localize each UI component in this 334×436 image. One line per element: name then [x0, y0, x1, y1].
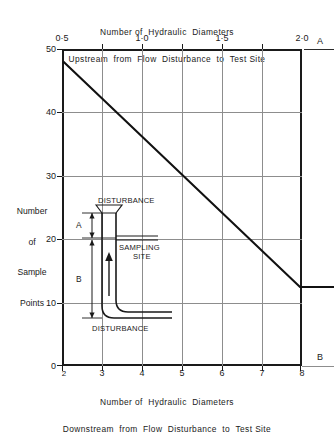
bottom-axis-title: Number of Hydraulic Diameters Downstream… [0, 380, 334, 436]
top-tick-label-3: 2·0 [295, 33, 308, 43]
x-tickmark-5 [182, 366, 183, 371]
corner-marker-a: A [317, 36, 323, 46]
corner-rule-a [304, 49, 334, 50]
dim-b-arrowhead-bottom [89, 313, 94, 319]
inset-label-disturbance-top: DISTURBANCE [98, 196, 155, 205]
x-tickmark-3 [102, 366, 103, 371]
inset-dim-label-b: B [76, 274, 82, 284]
top-tick-label-1: 1·0 [135, 33, 148, 43]
y-tick-label-10: 10 [30, 298, 56, 308]
duct-schematic-inset: DISTURBANCE DISTURBANCE SAMPLING SITE A … [72, 196, 184, 338]
duct-schematic-svg [72, 196, 184, 338]
x-tickmark-2 [62, 366, 63, 371]
dim-a-arrowhead-top [89, 213, 94, 219]
corner-marker-b: B [317, 352, 323, 362]
x-tickmark-8 [300, 366, 301, 371]
y-tick-label-0: 0 [30, 361, 56, 371]
dim-a-arrowhead-bottom [89, 233, 94, 239]
inset-label-disturbance-bottom: DISTURBANCE [92, 324, 149, 333]
inset-label-sampling-site-line1: SAMPLING [119, 243, 160, 252]
inset-label-sampling-site-line2: SITE [133, 252, 151, 261]
top-tick-label-2: 1·5 [215, 33, 228, 43]
dim-b-arrowhead-top [89, 240, 94, 246]
y-tick-label-20: 20 [30, 234, 56, 244]
bottom-axis-title-line1: Number of Hydraulic Diameters [0, 398, 334, 407]
x-tickmark-6 [222, 366, 223, 371]
x-tickmark-4 [142, 366, 143, 371]
duct-inner-wall [116, 213, 172, 312]
top-tick-label-0: 0·5 [55, 33, 68, 43]
y-tick-label-40: 40 [30, 107, 56, 117]
y-axis-title-line3: Sample [4, 267, 60, 277]
y-tick-label-30: 30 [30, 171, 56, 181]
corner-rule-b [302, 366, 334, 367]
duct-inlet-flare-icon [96, 205, 122, 213]
flow-arrow-head-icon [105, 252, 113, 261]
top-axis-title-line1: Number of Hydraulic Diameters [0, 28, 334, 37]
bottom-axis-title-line2: Downstream from Flow Disturbance to Test… [0, 425, 334, 434]
x-tickmark-7 [262, 366, 263, 371]
inset-dim-label-a: A [76, 220, 82, 230]
duct-outer-wall [102, 213, 172, 318]
y-axis-title-line1: Number [4, 206, 60, 216]
y-tick-label-50: 50 [30, 44, 56, 54]
